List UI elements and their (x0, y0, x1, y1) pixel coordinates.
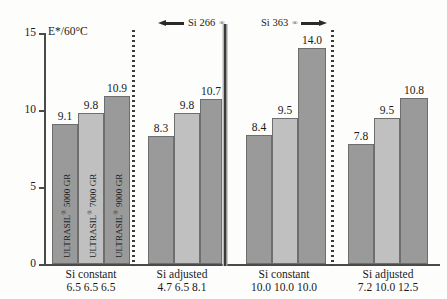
divider-group3-group4 (331, 30, 334, 266)
annotation-si-363: Si 363® (261, 17, 327, 29)
y-tick-mark-0 (39, 264, 45, 266)
registered-mark-icon: ® (60, 209, 67, 214)
bar-value-g1-b3: 10.9 (96, 82, 138, 94)
bar-value-g2-b3: 10.7 (190, 85, 232, 97)
arrow-left-icon (158, 20, 184, 27)
bar-label-text-3: ULTRASIL (114, 215, 124, 258)
bar-label-text-2: ULTRASIL (88, 215, 98, 258)
bar-g3-b3 (298, 48, 326, 264)
bar-value-g2-b2: 9.8 (166, 99, 208, 111)
bar-value-g1-b2: 9.8 (70, 99, 112, 111)
bar-value-g1-b1: 9.1 (44, 110, 86, 122)
y-tick-label-10: 10 (0, 104, 36, 116)
group-caption-values-4: 7.2 10.0 12.5 (336, 281, 440, 294)
annotation-si-363-label: Si 363 (261, 17, 288, 29)
group-caption-3: Si constant 10.0 10.0 10.0 (232, 268, 336, 294)
bar-value-g3-b1: 8.4 (238, 121, 280, 133)
bar-value-g4-b3: 10.8 (393, 84, 435, 96)
group-caption-1: Si constant 6.5 6.5 6.5 (38, 268, 144, 294)
bar-label-ultrasil-7000-gr: ULTRASIL® 7000 GR (89, 174, 98, 258)
y-tick-label-15: 15 (0, 27, 36, 39)
group-caption-title-4: Si adjusted (336, 268, 440, 281)
annotation-si-266-label: Si 266 (188, 17, 215, 29)
y-tick-mark-5 (39, 187, 45, 189)
bar-value-g4-b1: 7.8 (340, 130, 382, 142)
group-caption-2: Si adjusted 4.7 6.5 8.1 (134, 268, 230, 294)
bar-label-ultrasil-9000-gr: ULTRASIL® 9000 GR (115, 174, 124, 258)
group-caption-4: Si adjusted 7.2 10.0 12.5 (336, 268, 440, 294)
x-axis-line (44, 264, 440, 266)
bar-label-ultrasil-5000-gr: ULTRASIL® 5000 GR (63, 174, 72, 258)
group-caption-title-2: Si adjusted (134, 268, 230, 281)
bar-g2-b3 (200, 99, 222, 264)
y-axis-line (44, 33, 46, 265)
y-tick-label-0: 0 (0, 258, 36, 270)
registered-mark-icon: ® (86, 209, 93, 214)
registered-mark-icon: ® (112, 209, 119, 214)
divider-group1-group2 (132, 30, 135, 266)
bar-chart: E*/60°C 15 10 5 0 9.1 9.8 10.9 ULTRASIL®… (0, 0, 447, 299)
bar-g4-b1 (348, 144, 374, 264)
divider-silane-systems (224, 24, 226, 266)
bar-g4-b3 (400, 98, 428, 264)
group-caption-values-3: 10.0 10.0 10.0 (232, 281, 336, 294)
group-caption-title-1: Si constant (38, 268, 144, 281)
y-tick-label-5: 5 (0, 181, 36, 193)
y-axis-title: E*/60°C (48, 25, 88, 37)
bar-value-g4-b2: 9.5 (366, 104, 408, 116)
group-caption-values-2: 4.7 6.5 8.1 (134, 281, 230, 294)
annotation-si-266: Si 266® (158, 17, 224, 29)
arrow-right-icon (301, 20, 327, 27)
bar-g2-b1 (148, 136, 174, 264)
group-caption-values-1: 6.5 6.5 6.5 (38, 281, 144, 294)
bar-g3-b1 (246, 135, 272, 264)
bar-value-g3-b2: 9.5 (264, 104, 306, 116)
group-caption-title-3: Si constant (232, 268, 336, 281)
bar-label-text-1: ULTRASIL (62, 215, 72, 258)
y-tick-mark-15 (39, 33, 45, 35)
bar-value-g3-b3: 14.0 (291, 34, 333, 46)
bar-g3-b2 (272, 118, 298, 264)
bar-value-g2-b1: 8.3 (140, 122, 182, 134)
bar-g2-b2 (174, 113, 200, 264)
